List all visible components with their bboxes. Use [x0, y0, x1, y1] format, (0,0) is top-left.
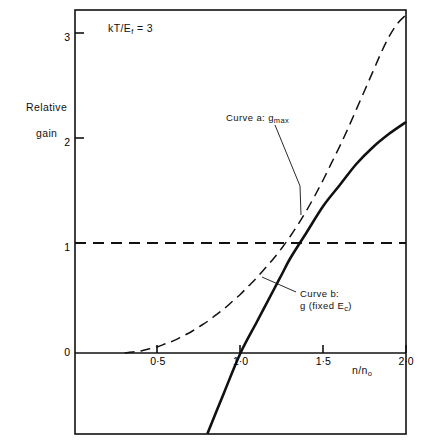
x-tick-label: 0·5: [141, 355, 175, 367]
kt-ef-annotation-value: = 3: [134, 22, 153, 34]
x-tick-label: 1·5: [306, 355, 340, 367]
curve-b-callout-label: Curve b:g (fixed Ec): [300, 288, 352, 314]
curve-b-fixed-ec: [207, 122, 406, 434]
kt-ef-annotation-main: kT/E: [108, 22, 131, 34]
x-axis-ticks: [157, 345, 406, 353]
x-axis-label-subscript: o: [368, 369, 373, 378]
curve-a-callout-prefix: Curve a: g: [226, 112, 274, 123]
curve-a-leader-line: [275, 125, 301, 215]
x-axis-label-text: n/n: [352, 364, 368, 376]
figure-panel: Relative gain n/no kT/Ef = 3 Curve a: gm…: [0, 0, 423, 446]
curve-b-callout-line2-post: ): [348, 300, 352, 311]
y-tick-label: 0: [56, 346, 70, 358]
y-tick-label: 3: [56, 31, 70, 43]
y-axis-ticks: [75, 33, 84, 243]
curve-a-callout-subscript: max: [274, 116, 289, 125]
x-axis-label: n/no: [352, 364, 372, 378]
y-axis-label-line2: gain: [36, 127, 57, 139]
y-tick-label: 2: [56, 136, 70, 148]
curve-b-callout-line1: Curve b:: [300, 288, 339, 299]
kt-ef-annotation: kT/Ef = 3: [108, 22, 153, 36]
curve-a-callout-label: Curve a: gmax: [226, 112, 289, 127]
curve-b-callout-line2-pre: g (fixed E: [300, 300, 344, 311]
y-tick-label: 1: [56, 241, 70, 253]
plot-canvas: [0, 0, 423, 446]
y-axis-label-line1: Relative: [26, 101, 67, 113]
x-tick-label: 2·0: [389, 355, 423, 367]
x-tick-label: 1·0: [224, 355, 258, 367]
curve-a-gmax: [125, 15, 406, 353]
